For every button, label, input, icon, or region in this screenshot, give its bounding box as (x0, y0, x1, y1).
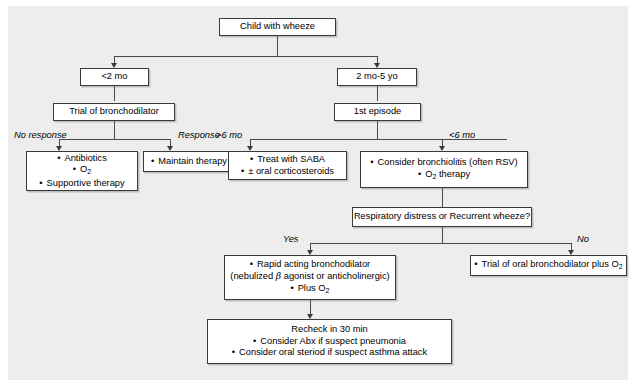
text-suffix: agonist or anticholinergic) (281, 271, 390, 281)
list-item: Consider oral steriod if suspect asthma … (232, 347, 427, 358)
node-label: Trial of bronchodilator (69, 106, 159, 117)
list-item: O2 (73, 164, 92, 177)
node-child-with-wheeze[interactable]: Child with wheeze (219, 18, 336, 36)
connector-trial-split (59, 139, 170, 140)
edge-label-yes: Yes (283, 234, 299, 244)
list-item-detail: (nebulized β agonist or anticholinergic) (230, 270, 389, 282)
connector-2mo5yo-to-first-episode (377, 86, 378, 101)
edge-label-no: No (577, 234, 589, 244)
list-item: Consider Abx if suspect pneumonia (253, 336, 406, 347)
list-item: Antibiotics (57, 153, 107, 164)
node-age-2mo-5yo[interactable]: 2 mo-5 yo (337, 68, 417, 86)
node-age-under-2-months[interactable]: <2 mo (80, 68, 149, 86)
list-item: Trial of oral bronchodilator plus O2 (474, 259, 622, 272)
subscript-2: 2 (432, 172, 436, 181)
edge-label-lt6mo: <6 mo (449, 130, 475, 140)
node-respiratory-distress-question[interactable]: Respiratory distress or Recurrent wheeze… (352, 207, 532, 227)
box-heading: Recheck in 30 min (291, 324, 367, 335)
edge-label-no-response: No response (14, 130, 67, 140)
list-item: Rapid acting bronchodilator (250, 259, 370, 270)
node-no-response-treatment[interactable]: Antibiotics O2 Supportive therapy (26, 151, 138, 191)
connector-question-split (310, 243, 572, 244)
edge-label-response: Response (178, 130, 220, 140)
subscript-2: 2 (87, 167, 91, 176)
node-trial-of-bronchodilator[interactable]: Trial of bronchodilator (53, 103, 175, 121)
edge-label-gt6mo: >6 mo (216, 130, 242, 140)
wheeze-algorithm-flowchart: No response Response >6 mo <6 mo Yes No … (0, 0, 642, 387)
node-first-episode[interactable]: 1st episode (334, 103, 421, 121)
node-trial-oral-bronchodilator[interactable]: Trial of oral bronchodilator plus O2 (470, 255, 627, 276)
subscript-2: 2 (619, 262, 623, 271)
connector-question-stem (442, 227, 443, 243)
node-consider-bronchiolitis[interactable]: Consider bronchiolitis (often RSV) O2 th… (360, 151, 528, 188)
text-prefix: (nebulized (230, 271, 275, 281)
node-label: 1st episode (354, 106, 402, 117)
node-saba-treatment[interactable]: Treat with SABA ± oral corticosteroids (228, 151, 347, 180)
node-label: <2 mo (101, 71, 127, 82)
node-recheck-in-30-min[interactable]: Recheck in 30 min Consider Abx if suspec… (207, 319, 452, 364)
subscript-2: 2 (326, 286, 330, 295)
connector-first-episode-stem (377, 121, 378, 139)
connector-bronchiolitis-to-question (442, 188, 443, 207)
connector-lt2mo-to-trial (114, 86, 115, 101)
connector-trial-stem (114, 121, 115, 139)
list-item: Consider bronchiolitis (often RSV) (370, 157, 517, 168)
node-rapid-acting-bronchodilator[interactable]: Rapid acting bronchodilator (nebulized β… (224, 255, 396, 300)
node-label: Child with wheeze (240, 21, 315, 32)
connector-root-split (114, 56, 378, 57)
list-item: Plus O2 (290, 283, 329, 296)
node-label: Respiratory distress or Recurrent wheeze… (354, 211, 530, 222)
list-item: ± oral corticosteroids (241, 166, 334, 177)
node-maintain-therapy[interactable]: Maintain therapy (143, 151, 235, 172)
node-label: 2 mo-5 yo (356, 71, 397, 82)
list-item: Supportive therapy (39, 178, 124, 189)
connector-root-stem (277, 36, 278, 56)
list-item: Treat with SABA (250, 154, 325, 165)
list-item: O2 therapy (418, 169, 470, 182)
list-item: Maintain therapy (151, 156, 227, 167)
